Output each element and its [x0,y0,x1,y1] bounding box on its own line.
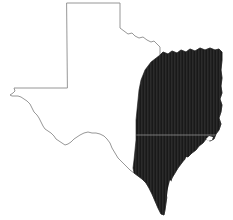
texas-map-svg [0,0,233,220]
map-figure: Texas [0,0,233,220]
